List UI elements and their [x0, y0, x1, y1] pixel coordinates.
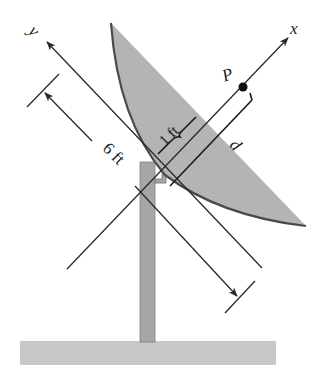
point-p — [239, 83, 248, 92]
point-p-label: P — [218, 64, 235, 86]
y-axis-label: y — [23, 20, 44, 41]
ground-slab — [20, 341, 276, 365]
dish-diagram: y x P d 1 ft 6 ft — [0, 0, 329, 379]
x-axis-line — [67, 38, 288, 269]
six-ft-label: 6 ft — [99, 139, 129, 169]
x-axis-label: x — [289, 19, 298, 38]
six-ft-arrow-up — [45, 93, 92, 141]
six-ft-tick-bottom — [225, 281, 255, 313]
support-post — [140, 162, 155, 342]
d-dimension-tick-end — [250, 93, 252, 100]
